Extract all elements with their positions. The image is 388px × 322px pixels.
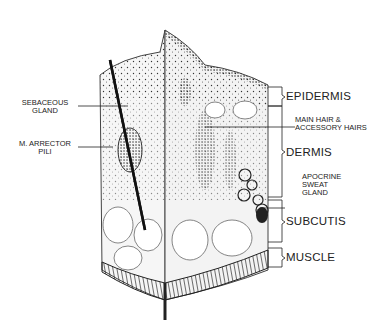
label-apocrine-sweat-gland: APOCRINE SWEAT GLAND: [302, 173, 341, 197]
skin-diagram: [0, 0, 388, 322]
layer-label-dermis: DERMIS: [286, 146, 332, 158]
layer-label-subcutis: SUBCUTIS: [286, 215, 346, 227]
label-arrector-pili: M. ARRECTOR PILI: [12, 140, 78, 156]
label-main-hair: MAIN HAIR & ACCESSORY HAIRS: [295, 116, 367, 132]
layer-label-epidermis: EPIDERMIS: [286, 90, 351, 102]
layer-label-muscle: MUSCLE: [286, 251, 335, 263]
skin-block-drawing: [100, 30, 268, 320]
label-line: PILI: [12, 148, 78, 156]
label-line: GLAND: [302, 189, 341, 197]
label-line: GLAND: [12, 107, 78, 115]
label-sebaceous-gland: SEBACEOUS GLAND: [12, 99, 78, 115]
label-line: ACCESSORY HAIRS: [295, 124, 367, 132]
